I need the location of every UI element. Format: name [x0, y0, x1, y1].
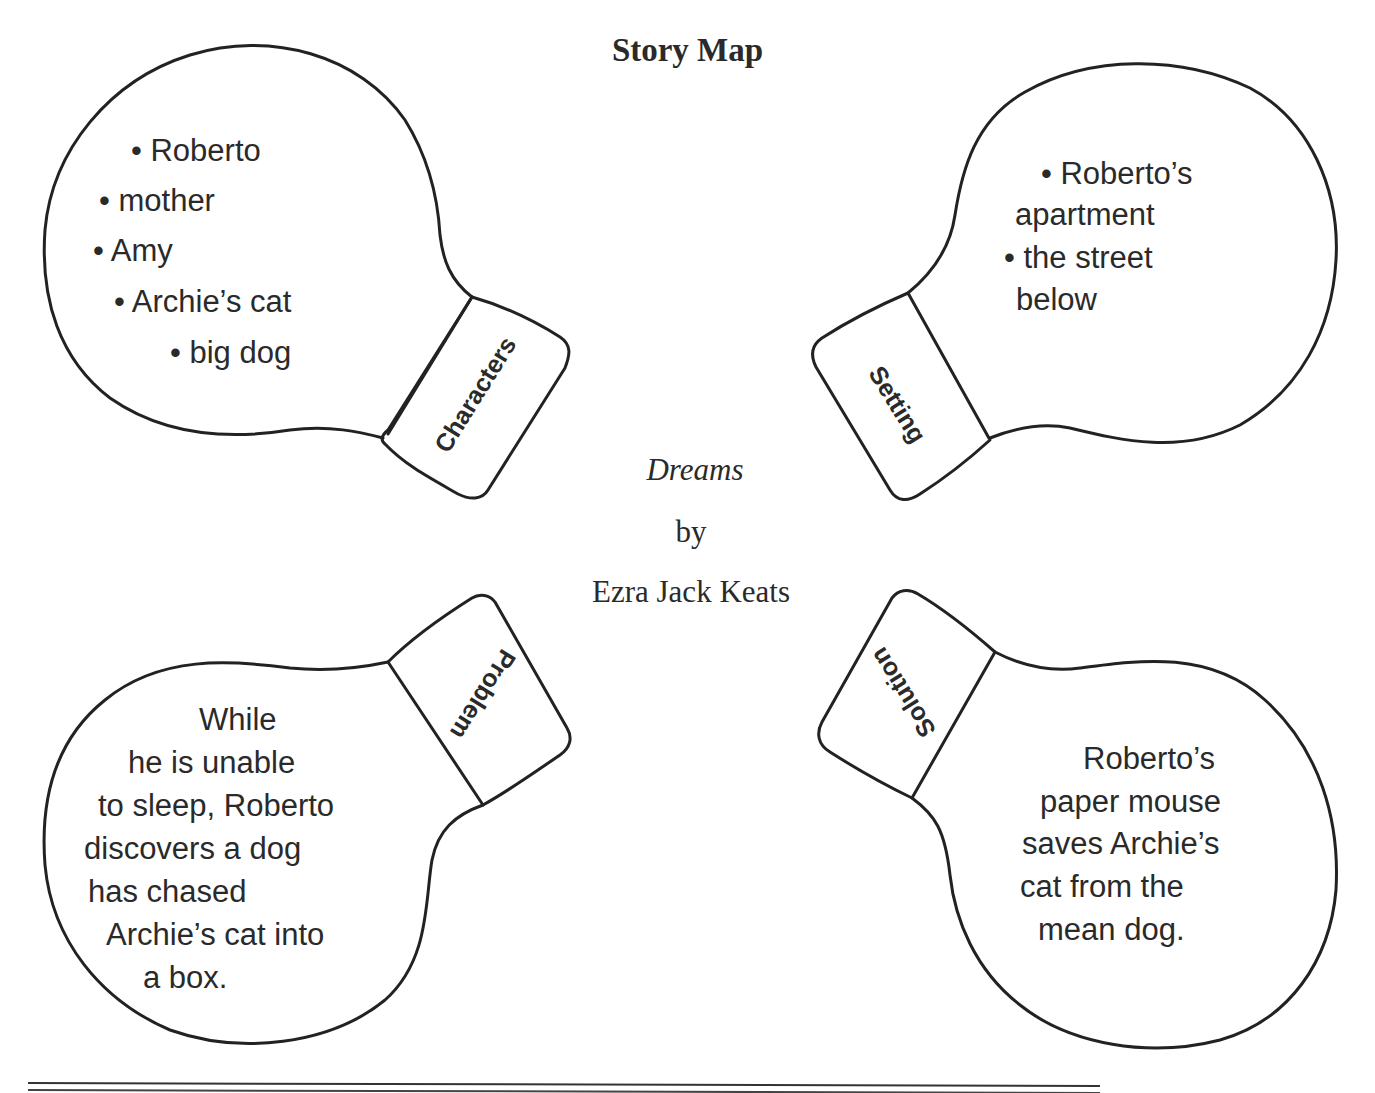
- problem-text-line: has chased: [88, 876, 247, 907]
- setting-item: below: [1016, 284, 1097, 315]
- book-author: Ezra Jack Keats: [0, 574, 1375, 610]
- characters-item: • big dog: [170, 337, 291, 368]
- book-title: Dreams: [0, 452, 1375, 488]
- solution-text-line: mean dog.: [1038, 914, 1185, 945]
- setting-item: • the street: [1004, 242, 1153, 273]
- characters-item: • Archie’s cat: [114, 286, 291, 317]
- bottom-rule-top: [28, 1083, 1100, 1086]
- page-title: Story Map: [0, 32, 1375, 69]
- problem-text-line: Archie’s cat into: [106, 919, 324, 950]
- characters-item: • mother: [99, 185, 215, 216]
- solution-text-line: saves Archie’s: [1022, 828, 1220, 859]
- characters-item: • Roberto: [131, 135, 261, 166]
- setting-item: apartment: [1015, 199, 1155, 230]
- story-map-worksheet: Story Map Dreams by Ezra Jack Keats • Ro…: [0, 0, 1375, 1093]
- problem-text-line: he is unable: [128, 747, 295, 778]
- setting-item: • Roberto’s: [1041, 158, 1193, 189]
- solution-text-line: Roberto’s: [1083, 743, 1215, 774]
- book-by: by: [0, 514, 1375, 550]
- problem-text-line: to sleep, Roberto: [98, 790, 334, 821]
- solution-text-line: paper mouse: [1040, 786, 1221, 817]
- problem-text-line: discovers a dog: [84, 833, 301, 864]
- problem-text-line: While: [199, 704, 277, 735]
- problem-text-line: a box.: [143, 962, 227, 993]
- characters-item: • Amy: [93, 235, 173, 266]
- solution-text-line: cat from the: [1020, 871, 1184, 902]
